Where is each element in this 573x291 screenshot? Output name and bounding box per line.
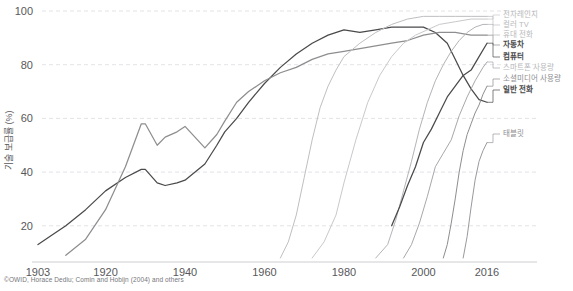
- legend-label-0[interactable]: 전자레인지: [503, 9, 538, 19]
- legend-label-2[interactable]: 휴대 전화: [503, 29, 533, 39]
- series-line-8: [463, 143, 487, 258]
- legend-leader-line: [487, 24, 500, 35]
- y-axis-tick-label: 60: [21, 112, 33, 124]
- y-axis-tick-label: 20: [21, 220, 33, 232]
- y-axis-tick-label: 100: [15, 5, 33, 17]
- legend-leader-line: [487, 134, 500, 143]
- legend-label-3[interactable]: 자동차: [503, 39, 524, 49]
- chart-canvas: 204060801001903192019401960198020002016기…: [0, 0, 573, 291]
- legend-label-7[interactable]: 일반 전화: [503, 84, 533, 94]
- legend-leader-line: [487, 16, 500, 25]
- series-line-1: [66, 32, 487, 255]
- y-axis-title: 기술 보급률 (%): [4, 110, 14, 169]
- x-axis-tick-label: 1960: [252, 266, 276, 278]
- source-attribution: ©OWID, Horace Dediu; Comin and Hobijn (2…: [4, 276, 184, 283]
- technology-adoption-chart: 204060801001903192019401960198020002016기…: [0, 0, 573, 291]
- legend-label-6[interactable]: 소셜미디어 사용량: [503, 73, 561, 83]
- x-axis-tick-label: 2000: [411, 266, 435, 278]
- series-line-0: [38, 27, 487, 244]
- x-axis-tick-label: 1980: [332, 266, 356, 278]
- series-line-2: [280, 16, 487, 258]
- legend-label-8[interactable]: 태블릿: [503, 128, 524, 138]
- series-line-3: [312, 19, 487, 258]
- legend-leader-line: [487, 79, 500, 86]
- legend-label-5[interactable]: 스마트폰 사용량: [503, 63, 554, 72]
- legend-leader-line: [487, 15, 500, 19]
- legend-leader-line: [487, 90, 500, 102]
- y-axis-tick-label: 80: [21, 59, 33, 71]
- series-line-6: [404, 62, 487, 258]
- legend-label-1[interactable]: 컬러 TV: [503, 20, 529, 29]
- x-axis-tick-label: 2016: [475, 266, 499, 278]
- y-axis-tick-label: 40: [21, 166, 33, 178]
- legend-label-4[interactable]: 컴퓨터: [503, 51, 524, 61]
